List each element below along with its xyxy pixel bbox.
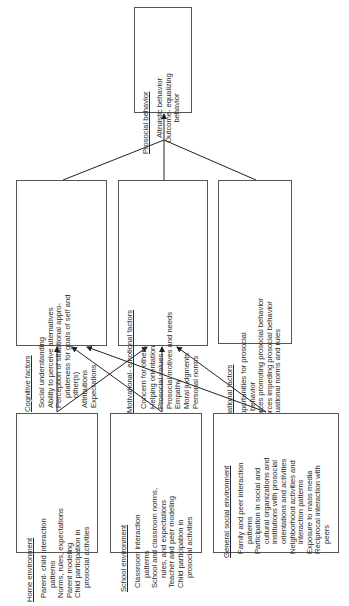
factor-item: Situational norms and rules xyxy=(274,269,283,421)
home-environment-box: Home environment Parent- child interacti… xyxy=(16,413,98,553)
school-environment-box: School environment Classroom interaction… xyxy=(110,413,202,553)
prosocial-behavior-box: Prosocial behavior Altruistic behavior O… xyxy=(134,7,192,113)
cognitive-factors-title: Cognitive factors xyxy=(23,254,32,412)
motivational-emotional-factors-title: Motivational- emotional factors xyxy=(125,255,134,413)
situational-factors-title: Situational factors xyxy=(225,269,234,425)
environment-item: prosocial activities xyxy=(186,460,195,588)
factor-item: Expectations xyxy=(90,254,99,408)
school-environment-title: School environment xyxy=(119,460,128,592)
situational-factors-box: Situational factors Opportunities for pr… xyxy=(218,180,292,344)
environment-item: peers xyxy=(323,426,332,554)
home-environment-title: Home environment xyxy=(25,470,34,602)
prosocial-behavior-title: Prosocial behavior xyxy=(141,54,150,154)
factor-item: Personal norms xyxy=(192,255,201,409)
motivational-emotional-factors-box: Motivational- emotional factors Concern … xyxy=(118,180,208,346)
outcome-item: behavior xyxy=(173,62,182,154)
general-social-environment-title: General social environment xyxy=(222,426,231,558)
environment-item: prosocial activities xyxy=(83,470,92,598)
cognitive-factors-box: Cognitive factors Social understanding A… xyxy=(16,180,107,346)
general-social-environment-box: General social environment Family and pe… xyxy=(213,413,339,553)
